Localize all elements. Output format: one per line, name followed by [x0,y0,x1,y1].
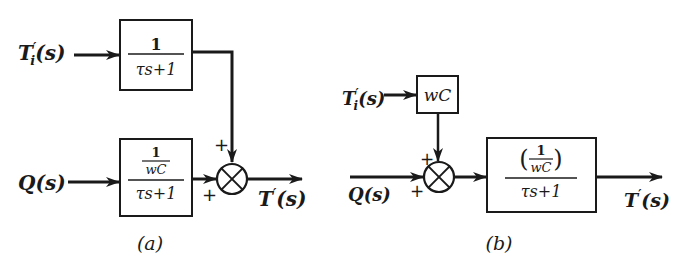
block-diagram-canvas: T′i(s) 1 τs+1 + Q(s) 1 wC τs+1 + T′(s) [0,0,682,279]
block-wc-label: wC [424,85,452,105]
block-main-denominator: τs+1 [521,182,562,201]
plus-sign-left-a: + [202,184,217,205]
plus-sign-left-b: + [410,181,424,201]
block-gain-denominator: τs+1 [136,184,177,203]
diagram-a: T′i(s) 1 τs+1 + Q(s) 1 wC τs+1 + T′(s) [18,20,307,254]
paren-open: ( [519,145,528,173]
block-lag-numerator: 1 [150,35,161,54]
block-main-numerator-bottom: wC [530,160,551,175]
paren-close: ) [553,145,562,173]
input-ti-label-a: T′i(s) [18,40,65,68]
input-q-label-b: Q(s) [348,184,391,205]
plus-sign-top-a: + [214,134,229,155]
input-q-label-a: Q(s) [18,171,66,195]
output-t-label-a: T′(s) [258,186,307,211]
block-lag-a [120,20,192,90]
output-t-label-b: T′(s) [624,188,670,211]
caption-b: (b) [486,232,513,254]
input-ti-label-b: T′i(s) [342,87,385,113]
block-gain-numerator-top: 1 [151,145,160,160]
block-main-numerator-top: 1 [536,143,545,158]
block-lag-denominator: τs+1 [136,60,177,79]
summing-junction-b [424,162,454,192]
summing-junction-a [217,164,247,194]
diagram-b: T′i(s) wC + Q(s) + ( 1 wC ) τs+1 T′(s) [342,76,670,254]
caption-a: (a) [137,232,163,254]
block-gain-numerator-bottom: wC [145,162,166,177]
